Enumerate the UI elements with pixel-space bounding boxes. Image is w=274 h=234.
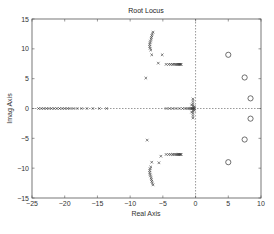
x-tick-label: 5 [226, 200, 230, 207]
x-tick-label: −10 [124, 200, 136, 207]
chart-title: Root Locus [128, 7, 164, 14]
y-tick-label: −10 [17, 165, 29, 172]
x-tick-label: −20 [59, 200, 71, 207]
y-tick-label: −15 [17, 195, 29, 202]
y-tick-label: 15 [21, 16, 29, 23]
y-tick-label: −5 [21, 135, 29, 142]
x-tick-label: 10 [257, 200, 265, 207]
y-tick-label: 0 [25, 105, 29, 112]
y-tick-label: 10 [21, 45, 29, 52]
x-axis-label: Real Axis [131, 210, 161, 217]
root-locus-chart: Root Locus −25−20−15−10−50510 −15−10−505… [0, 0, 274, 234]
x-tick-label: −15 [91, 200, 103, 207]
x-tick-label: 0 [194, 200, 198, 207]
y-tick-label: 5 [25, 75, 29, 82]
x-tick-label: −5 [159, 200, 167, 207]
y-axis-label: Imag Axis [6, 93, 14, 124]
